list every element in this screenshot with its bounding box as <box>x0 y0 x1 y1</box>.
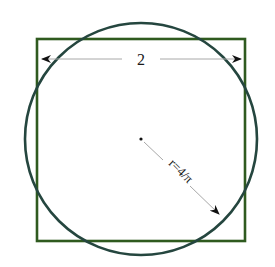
side-length-label: 2 <box>137 51 145 68</box>
width-dimension: 2 <box>42 51 241 68</box>
diagram-canvas: 2 r=4/π <box>0 0 275 267</box>
radius-label: r=4/π <box>166 155 197 186</box>
center-point <box>139 137 142 140</box>
radius-dimension: r=4/π <box>144 142 219 214</box>
